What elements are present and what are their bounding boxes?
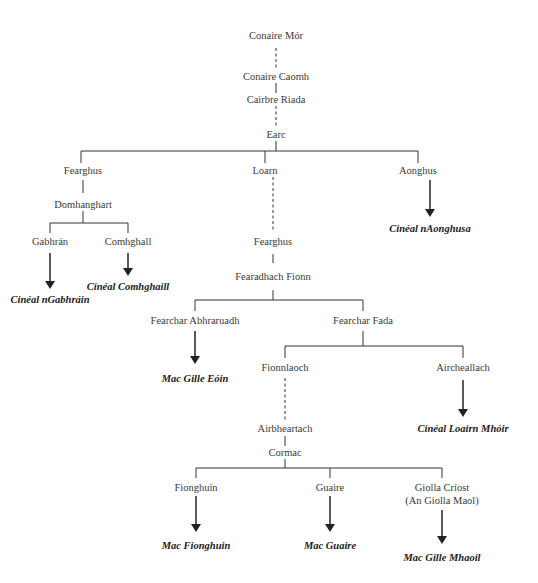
clan-mac-guaire: Mac Guaire <box>304 540 356 552</box>
person-fionnlaoch: Fionnlaoch <box>260 362 309 374</box>
clan-mac-gille-eoin: Mac Gille Eóin <box>162 373 229 385</box>
person-conaire-caomh: Conaire Caomh <box>242 71 310 83</box>
clan-cineal-loairn-mhoir: Cinéal Loairn Mhóir <box>417 423 508 435</box>
person-aonghus: Aonghus <box>398 165 438 177</box>
person-aircheallach: Aircheallach <box>435 362 491 374</box>
person-fearghus-descendant-of-loarn: Fearghus <box>253 236 293 248</box>
person-earc: Earc <box>265 129 286 141</box>
person-guaire: Guaire <box>315 482 346 494</box>
person-fearchar-fada: Fearchar Fada <box>332 315 394 327</box>
person-domhanghart: Domhanghart <box>53 199 113 211</box>
person-giolla-criost-alias: (An Giolla Maol) <box>404 495 480 507</box>
person-fearadhach-fionn: Fearadhach Fionn <box>234 271 312 283</box>
person-fearchar-abhraruadh: Fearchar Abhraruadh <box>150 315 241 327</box>
person-cairbre-riada: Cairbre Riada <box>246 94 307 106</box>
person-loarn: Loarn <box>251 165 278 177</box>
person-fionghuin: Fionghuin <box>173 482 218 494</box>
clan-mac-fionghuin: Mac Fionghuin <box>162 540 231 552</box>
clan-mac-gille-mhaoil: Mac Gille Mhaoil <box>403 552 480 564</box>
clan-cineal-naonghusa: Cinéal nAonghusa <box>389 223 470 235</box>
person-cormac: Cormac <box>267 447 302 459</box>
person-gabhran: Gabhrán <box>31 236 69 248</box>
person-comhghall: Comhghall <box>104 236 153 248</box>
clan-cineal-ngabhrain: Cinéal nGabhráin <box>10 294 89 306</box>
person-conaire-mor: Conaire Mór <box>248 30 304 42</box>
clan-cineal-comhghaill: Cinéal Comhghaill <box>87 281 170 293</box>
person-fearghus-son-of-earc: Fearghus <box>63 165 103 177</box>
person-airbheartach: Airbheartach <box>257 423 314 435</box>
person-giolla-criost: Giolla Críost <box>414 482 471 494</box>
